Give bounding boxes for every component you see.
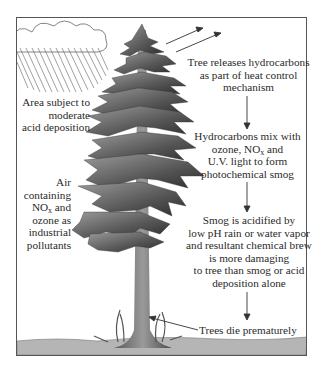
step2-line-4: photochemical smog [180,168,315,181]
step-trees-die: Trees die prematurely [199,324,309,337]
air-line-1: Air [14,176,71,189]
step3-line-3: and resultant chemical brew [182,239,316,252]
hydrocarbon-release-arrows [166,27,221,52]
air-nox-suffix: and [52,201,71,213]
acid-deposition-label: Area subject to moderate acid deposition [14,96,90,134]
step3-line-5: to tree than smog or acid [182,264,316,277]
step-tree-releases-hydrocarbons: Tree releases hydrocarbons as part of he… [176,56,321,94]
air-line-5: industrial [14,226,71,239]
step3-line-4: is more damaging [182,252,316,265]
step2-line-1: Hydrocarbons mix with [180,130,315,143]
step3-line-1: Smog is acidified by [182,214,316,227]
step1-line-2: as part of heat control [176,69,321,82]
step-smog-acidified: Smog is acidified by low pH rain or wate… [182,214,316,290]
step1-line-3: mechanism [176,81,321,94]
step2-nox-prefix: ozone, NO [212,143,260,155]
acid-deposition-line-1: Area subject to [14,96,90,109]
step3-line-6: deposition alone [182,277,316,290]
air-line-6: pollutants [14,239,71,252]
air-line-4: ozone as [14,214,71,227]
step4-line-1: Trees die prematurely [199,324,309,337]
acid-deposition-line-3: acid deposition [14,121,90,134]
rain-icon [17,48,108,92]
air-line-2: containing [14,189,71,202]
acid-deposition-line-2: moderate [14,109,90,122]
cloud-icon [10,21,107,52]
air-pollutants-label: Air containing NOx and ozone as industri… [14,176,71,252]
step2-nox-suffix: and [264,143,283,155]
step1-line-1: Tree releases hydrocarbons [176,56,321,69]
step2-line-3: U.V. light to form [180,155,315,168]
step3-line-2: low pH rain or water vapor [182,227,316,240]
step-photochemical-smog: Hydrocarbons mix with ozone, NOx and U.V… [180,130,315,180]
air-line-3: NOx and [14,201,71,214]
step2-line-2: ozone, NOx and [180,143,315,156]
air-nox-prefix: NO [32,201,48,213]
